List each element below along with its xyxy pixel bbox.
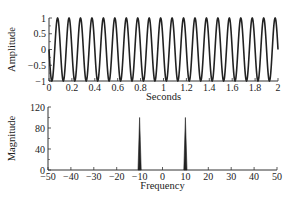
top-plot-y-tick-label: −0.5 (28, 60, 46, 71)
top-plot-x-tick-label: 1.6 (226, 82, 239, 93)
top-plot-x-tick-label: 0.4 (89, 82, 102, 93)
bottom-plot-x-tick-label: 20 (203, 171, 213, 182)
bottom-y-axis-label: Magnitude (6, 115, 17, 161)
top-plot-y-tick-label: 0 (41, 44, 46, 55)
top-plot-y-tick-label: 1 (41, 13, 46, 24)
spectrum-peak (184, 118, 187, 171)
bottom-plot-x-tick-label: 40 (249, 171, 259, 182)
top-plot-x-tick-label: 1.4 (203, 82, 216, 93)
top-plot-y-tick-label: −1 (35, 76, 46, 87)
bottom-x-axis-label: Frequency (140, 180, 185, 191)
top-plot-x-tick-label: 0.2 (66, 82, 79, 93)
bottom-plot-x-tick-label: 50 (272, 171, 282, 182)
top-plot-x-tick-label: 0.8 (134, 82, 147, 93)
bottom-plot-x-tick-label: 30 (226, 171, 236, 182)
top-plot-y-tick-label: 0.5 (34, 28, 47, 39)
bottom-plot-y-tick-label: 40 (35, 144, 45, 155)
top-plot-x-tick-label: 2 (276, 82, 281, 93)
sine-wave-line (49, 18, 278, 81)
bottom-plot-y-tick-label: 0 (40, 165, 45, 176)
bottom-plot-y-tick-label: 80 (35, 123, 45, 134)
top-plot-x-tick-label: 1.8 (249, 82, 262, 93)
top-plot-x-tick-label: 1.2 (180, 82, 193, 93)
top-y-axis-label: Amplitude (6, 27, 17, 72)
spectrum-peak (138, 118, 141, 171)
top-plot-x-tick-label: 0.6 (111, 82, 124, 93)
bottom-plot-x-tick-label: −20 (109, 171, 125, 182)
top-x-axis-label: Seconds (146, 91, 181, 102)
figure: 00.20.40.60.811.21.41.61.8210.50−0.5−1Se… (0, 0, 290, 202)
bottom-plot-x-tick-label: −40 (63, 171, 79, 182)
top-plot-x-tick-label: 0 (47, 82, 52, 93)
bottom-plot-x-tick-label: −30 (86, 171, 102, 182)
bottom-plot-y-tick-label: 120 (30, 102, 45, 113)
